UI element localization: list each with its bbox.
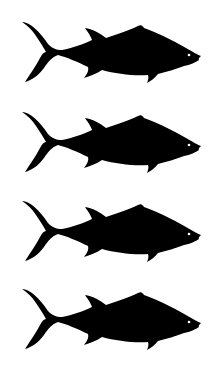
tuna-silhouette-3 (0, 181, 223, 271)
tuna-icon (0, 181, 223, 271)
tuna-silhouette-4 (0, 269, 223, 359)
tuna-icon (0, 2, 223, 92)
tuna-icon (0, 269, 223, 359)
eye-icon (188, 144, 191, 147)
tuna-silhouette-2 (0, 92, 223, 182)
eye-icon (188, 233, 191, 236)
tuna-icon (0, 92, 223, 182)
tuna-silhouette-1 (0, 2, 223, 92)
eye-icon (188, 321, 191, 324)
eye-icon (188, 54, 191, 57)
